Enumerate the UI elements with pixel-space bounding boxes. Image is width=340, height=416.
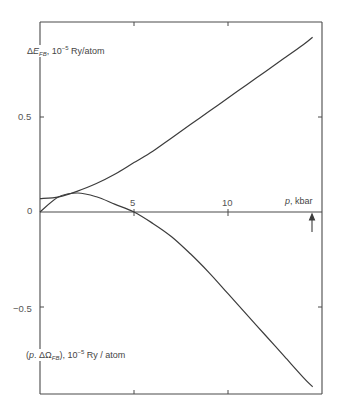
- y-label-lower: (p. ΔΩFB), 10−5 Ry / atom: [25, 349, 126, 361]
- x-tick-label-5: 5: [130, 197, 135, 208]
- unit-suffix: Ry/atom: [69, 46, 105, 56]
- unit-suffix: Ry / atom: [84, 350, 125, 360]
- ticks: [40, 22, 322, 394]
- x-tick-label-10: 10: [222, 197, 233, 208]
- y-tick-label-0-5: 0.5: [18, 111, 31, 122]
- curve-delta-e-fb: [40, 37, 313, 199]
- x-axis-label: p, kbar: [284, 196, 314, 206]
- unit-prefix: , 10: [47, 46, 62, 56]
- y-tick-label-0: 0: [27, 205, 32, 216]
- y-tick-label-minus-0-5: −0.5: [13, 303, 32, 314]
- pressure-arrow-icon: [310, 214, 315, 232]
- y-label-upper: ΔEFB, 10−5 Ry/atom: [26, 45, 106, 57]
- subscript-fb: FB: [39, 51, 47, 57]
- x-unit: , kbar: [290, 196, 313, 206]
- plot-frame: [40, 22, 322, 394]
- delta-omega-symbol: . ΔΩ: [34, 350, 52, 360]
- exponent: −5: [62, 45, 69, 51]
- unit-prefix: ), 10: [59, 350, 77, 360]
